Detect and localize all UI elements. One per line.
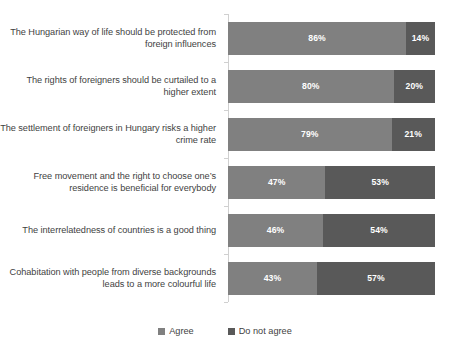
bar-row: Free movement and the right to choose on… — [0, 158, 450, 206]
bar-segment-do-not-agree: 14% — [406, 22, 435, 55]
category-label: The interrelatedness of countries is a g… — [0, 224, 222, 236]
legend-label: Do not agree — [239, 326, 292, 336]
bar-track: 46% 54% — [228, 214, 435, 247]
bar-row: The settlement of foreigners in Hungary … — [0, 110, 450, 158]
bar-segment-do-not-agree: 54% — [323, 214, 435, 247]
bar-row: The Hungarian way of life should be prot… — [0, 14, 450, 62]
plot-area: The Hungarian way of life should be prot… — [0, 10, 450, 310]
legend-swatch-icon — [228, 328, 235, 335]
bar-segment-do-not-agree: 21% — [392, 118, 435, 151]
bar-segment-agree: 86% — [228, 22, 406, 55]
category-label: The rights of foreigners should be curta… — [0, 74, 222, 99]
bar-track: 43% 57% — [228, 262, 435, 295]
legend-item-do-not-agree[interactable]: Do not agree — [228, 326, 292, 336]
bar-track: 86% 14% — [228, 22, 435, 55]
axis-tick — [224, 302, 228, 303]
bar-segment-agree: 79% — [228, 118, 392, 151]
category-label: Cohabitation with people from diverse ba… — [0, 266, 222, 291]
bar-segment-agree: 46% — [228, 214, 323, 247]
bar-track: 80% 20% — [228, 70, 435, 103]
bar-segment-agree: 80% — [228, 70, 394, 103]
category-label: The Hungarian way of life should be prot… — [0, 26, 222, 51]
bar-track: 79% 21% — [228, 118, 435, 151]
category-label: Free movement and the right to choose on… — [0, 170, 222, 195]
legend-label: Agree — [169, 326, 194, 336]
legend-item-agree[interactable]: Agree — [158, 326, 194, 336]
bar-track: 47% 53% — [228, 166, 435, 199]
bar-segment-do-not-agree: 53% — [325, 166, 435, 199]
legend-swatch-icon — [158, 328, 165, 335]
stacked-bar-chart: The Hungarian way of life should be prot… — [0, 0, 450, 357]
chart-legend: Agree Do not agree — [0, 326, 450, 336]
category-label: The settlement of foreigners in Hungary … — [0, 122, 222, 147]
bar-segment-do-not-agree: 20% — [394, 70, 435, 103]
bar-row: Cohabitation with people from diverse ba… — [0, 254, 450, 302]
bar-row: The rights of foreigners should be curta… — [0, 62, 450, 110]
bar-segment-do-not-agree: 57% — [317, 262, 435, 295]
bar-row: The interrelatedness of countries is a g… — [0, 206, 450, 254]
bar-segment-agree: 47% — [228, 166, 325, 199]
bar-segment-agree: 43% — [228, 262, 317, 295]
